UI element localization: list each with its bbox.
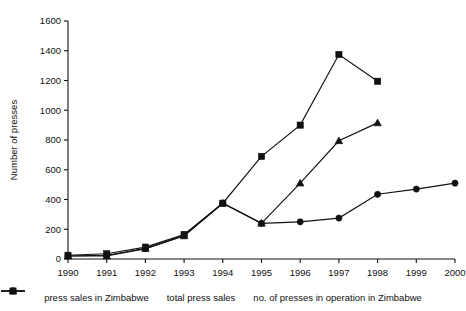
y-tick-label: 1200 (40, 75, 61, 86)
x-tick-label: 1996 (290, 267, 311, 278)
y-tick-label: 800 (45, 134, 61, 145)
legend-item-1[interactable]: press sales in Zimbabwe (44, 292, 149, 303)
chart-root: · · · · · · 0200400600800100012001400160… (0, 0, 466, 311)
data-point (220, 200, 226, 206)
y-tick-label: 1000 (40, 105, 61, 116)
x-tick-label: 1990 (57, 267, 78, 278)
y-tick-label: 0 (56, 253, 61, 264)
data-point (335, 137, 343, 144)
legend-item-3[interactable]: no. of presses in operation in Zimbabwe (253, 292, 421, 303)
x-tick-label: 2000 (444, 267, 465, 278)
y-axis-title: Number of presses (8, 100, 19, 181)
data-point (413, 186, 419, 192)
x-tick-label: 1992 (135, 267, 156, 278)
legend-marker (10, 288, 16, 294)
x-axis-tick-labels: 1990199119921993199419951996199719981999… (57, 267, 465, 278)
x-tick-label: 1991 (96, 267, 117, 278)
data-point (374, 119, 382, 126)
chart-series-group (64, 51, 458, 259)
data-point (297, 219, 303, 225)
y-tick-label: 1400 (40, 45, 61, 56)
legend-label: total press sales (167, 292, 236, 303)
data-point (142, 244, 148, 250)
data-point (104, 251, 110, 257)
data-point (297, 122, 303, 128)
data-point (375, 78, 381, 84)
series-3 (65, 51, 381, 258)
series-2 (64, 119, 381, 259)
x-tick-label: 1994 (212, 267, 233, 278)
data-point (336, 51, 342, 57)
series-line (68, 123, 378, 256)
x-tick-label: 1993 (174, 267, 195, 278)
data-point (65, 252, 71, 258)
y-tick-label: 1600 (40, 15, 61, 26)
y-axis-tick-labels: 02004006008001000120014001600 (40, 15, 61, 264)
data-point (375, 191, 381, 197)
series-line (68, 54, 378, 255)
x-tick-label: 1997 (328, 267, 349, 278)
y-tick-label: 200 (45, 224, 61, 235)
data-point (258, 153, 264, 159)
legend-label: press sales in Zimbabwe (44, 292, 149, 303)
chart-legend: press sales in Zimbabwetotal press sales… (0, 285, 466, 309)
legend-item-2[interactable]: total press sales (167, 292, 236, 303)
x-tick-label: 1999 (406, 267, 427, 278)
line-chart-canvas: 02004006008001000120014001600 1990199119… (0, 0, 466, 285)
y-tick-label: 600 (45, 164, 61, 175)
data-point (452, 180, 458, 186)
data-point (336, 215, 342, 221)
y-tick-label: 400 (45, 194, 61, 205)
x-tick-label: 1995 (251, 267, 272, 278)
data-point (181, 231, 187, 237)
chart-axes (64, 21, 455, 263)
x-tick-label: 1998 (367, 267, 388, 278)
legend-marker-square-icon (0, 285, 26, 297)
legend-label: no. of presses in operation in Zimbabwe (253, 292, 421, 303)
